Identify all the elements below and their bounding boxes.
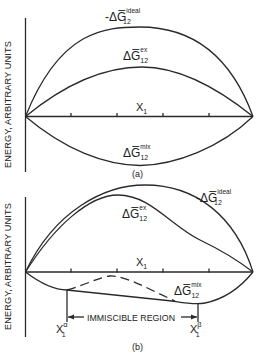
label-excess-b: ΔG̅ex12 [122, 204, 147, 222]
alpha-marker-label: Xα1 [56, 320, 68, 338]
label-mix-a: ΔG̅mix12 [123, 143, 151, 161]
label-ideal-b: -ΔG̅ideal12 [196, 188, 232, 206]
label-excess-a: ΔG̅ex12 [123, 46, 148, 64]
caption-a: (a) [132, 169, 143, 179]
y-axis-label-a: ENERGY, ARBITRARY UNITS [3, 41, 13, 168]
diagram-canvas: ENERGY, ARBITRARY UNITS X1 -ΔG̅ideal12 Δ… [0, 0, 261, 356]
label-mix-b: ΔG̅mix12 [174, 281, 202, 299]
label-ideal-a: -ΔG̅ideal12 [105, 7, 141, 25]
x-axis-label-b: X1 [136, 256, 147, 270]
y-axis-label-b: ENERGY, ARBITRARY UNITS [3, 203, 13, 330]
curve-mix-unstable-b [67, 276, 175, 301]
beta-marker-label: Xβ1 [190, 320, 202, 338]
x-axis-label-a: X1 [136, 101, 147, 115]
panel-b: ENERGY, ARBITRARY UNITS X1 IMMISCIBLE RE… [3, 185, 253, 352]
immiscible-region-label: IMMISCIBLE REGION [87, 313, 175, 323]
caption-b: (b) [132, 342, 143, 352]
curve-mix-b [26, 272, 254, 304]
panel-a: ENERGY, ARBITRARY UNITS X1 -ΔG̅ideal12 Δ… [3, 7, 253, 179]
